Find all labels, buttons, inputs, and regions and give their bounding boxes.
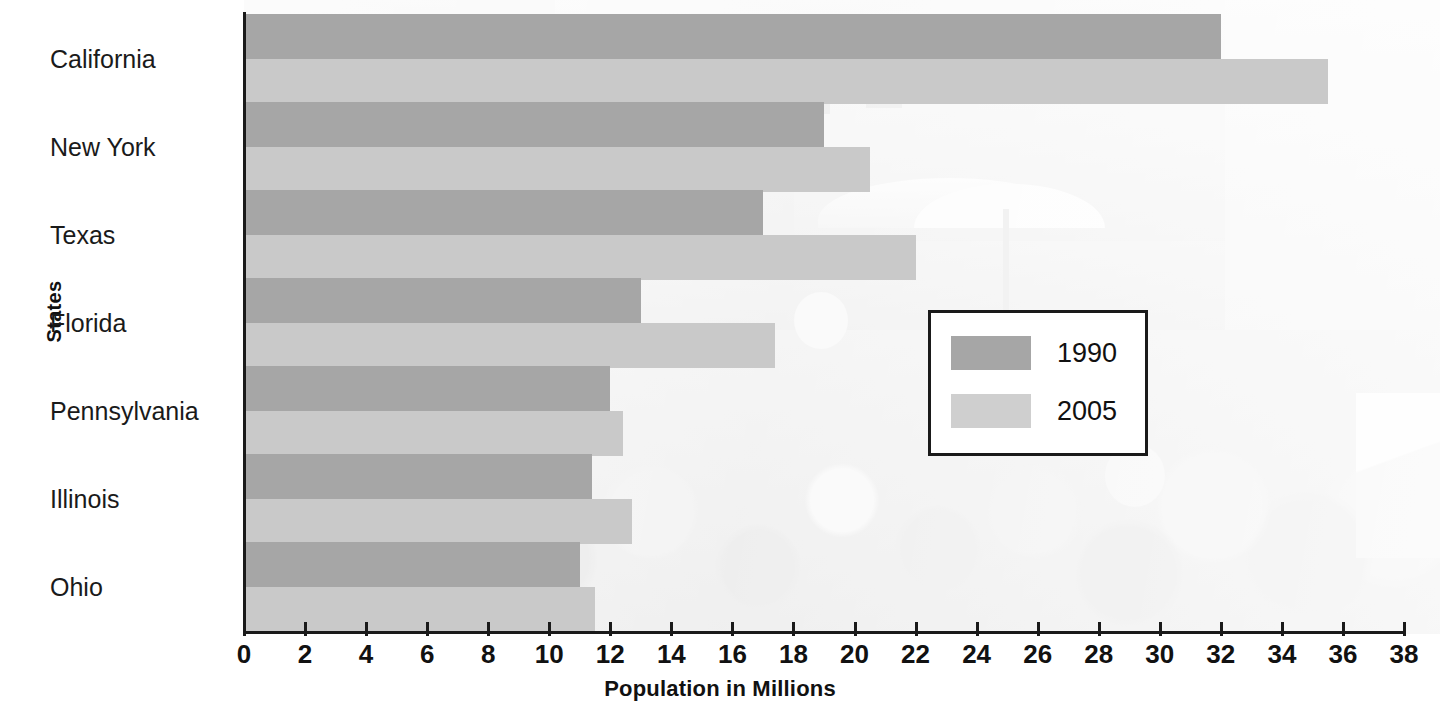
bar — [244, 147, 870, 192]
bar — [244, 235, 916, 280]
x-axis-tick-label: 12 — [596, 639, 625, 670]
x-axis-tick-label: 30 — [1145, 639, 1174, 670]
x-axis-tick — [1220, 622, 1223, 636]
x-axis-line — [244, 631, 1404, 634]
x-axis-tick — [670, 622, 673, 636]
bar — [244, 190, 763, 235]
x-axis-tick — [487, 622, 490, 636]
legend-swatch-1990 — [951, 336, 1031, 370]
x-axis-tick-label: 22 — [901, 639, 930, 670]
x-axis-tick — [976, 622, 979, 636]
bar — [244, 587, 595, 632]
x-axis-tick — [1342, 622, 1345, 636]
bar — [244, 499, 632, 544]
x-axis-tick-label: 14 — [657, 639, 686, 670]
x-axis-tick-label: 6 — [420, 639, 434, 670]
x-axis-tick-label: 24 — [962, 639, 991, 670]
x-axis-tick — [1159, 622, 1162, 636]
bar — [244, 366, 610, 411]
bar — [244, 59, 1328, 104]
x-axis-tick-label: 32 — [1206, 639, 1235, 670]
y-axis-tick-label: Illinois — [0, 485, 222, 514]
x-axis-tick — [243, 622, 246, 636]
y-axis-tick-label: Florida — [0, 309, 222, 338]
bar — [244, 14, 1221, 59]
y-axis-tick-label: Texas — [0, 221, 222, 250]
y-axis-tick-label: New York — [0, 133, 222, 162]
bar — [244, 323, 775, 368]
plot-area — [244, 0, 1440, 634]
legend-item-1990: 1990 — [951, 335, 1117, 371]
y-axis-tick-label: California — [0, 45, 222, 74]
x-axis-tick-label: 16 — [718, 639, 747, 670]
y-axis-line — [243, 12, 246, 634]
legend-label-2005: 2005 — [1057, 398, 1117, 425]
bar — [244, 542, 580, 587]
legend: 1990 2005 — [928, 310, 1148, 456]
x-axis-tick — [854, 622, 857, 636]
x-axis-tick — [304, 622, 307, 636]
bar — [244, 454, 592, 499]
bar — [244, 102, 824, 147]
x-axis-tick — [1281, 622, 1284, 636]
x-axis-tick-label: 36 — [1328, 639, 1357, 670]
x-axis-tick-label: 28 — [1084, 639, 1113, 670]
x-axis-tick — [1403, 622, 1406, 636]
x-axis-tick — [548, 622, 551, 636]
x-axis-tick — [365, 622, 368, 636]
x-axis-tick — [1098, 622, 1101, 636]
x-axis-tick-label: 26 — [1023, 639, 1052, 670]
x-axis-tick-label: 8 — [481, 639, 495, 670]
x-axis-tick — [792, 622, 795, 636]
y-axis-tick-labels: CaliforniaNew YorkTexasFloridaPennsylvan… — [0, 0, 232, 634]
x-axis-tick-label: 38 — [1390, 639, 1419, 670]
x-axis-title: Population in Millions — [0, 676, 1440, 702]
x-axis-tick-label: 4 — [359, 639, 373, 670]
x-axis-tick — [731, 622, 734, 636]
x-axis-tick — [915, 622, 918, 636]
x-axis-tick-label: 34 — [1267, 639, 1296, 670]
legend-label-1990: 1990 — [1057, 340, 1117, 367]
legend-item-2005: 2005 — [951, 393, 1117, 429]
x-axis-tick-label: 20 — [840, 639, 869, 670]
y-axis-tick-label: Ohio — [0, 573, 222, 602]
x-axis-tick-label: 18 — [779, 639, 808, 670]
x-axis-tick-label: 2 — [298, 639, 312, 670]
bar — [244, 411, 623, 456]
legend-swatch-2005 — [951, 394, 1031, 428]
x-axis-tick-label: 10 — [535, 639, 564, 670]
x-axis-tick — [1037, 622, 1040, 636]
x-axis-tick-label: 0 — [237, 639, 251, 670]
x-axis-tick — [609, 622, 612, 636]
bar — [244, 278, 641, 323]
chart-figure: States CaliforniaNew YorkTexasFloridaPen… — [0, 0, 1440, 719]
y-axis-tick-label: Pennsylvania — [0, 397, 222, 426]
x-axis-tick — [426, 622, 429, 636]
